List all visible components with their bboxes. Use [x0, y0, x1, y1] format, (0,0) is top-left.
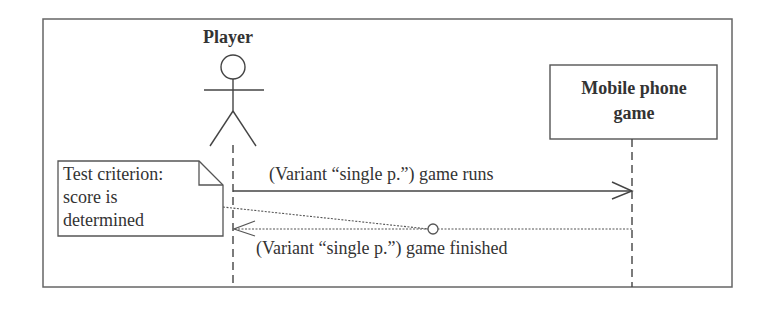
object-label-line1: Mobile phone: [581, 78, 687, 98]
sequence-diagram-canvas: [0, 0, 765, 312]
anchor-circle-icon: [428, 224, 438, 234]
note-line2: score is: [63, 187, 117, 207]
object-label-line2: game: [614, 103, 655, 123]
message-game-runs-label: (Variant “single p.”) game runs: [269, 164, 493, 185]
note-anchor-connector: [223, 207, 438, 234]
message-game-finished-label: (Variant “single p.”) game finished: [256, 238, 507, 259]
note-line3: determined: [63, 210, 144, 230]
note-line1: Test criterion:: [63, 164, 163, 184]
actor-player-label: Player: [203, 27, 253, 48]
note-test-criterion-text: Test criterion: score is determined: [63, 163, 203, 232]
object-mobile-game-label: Mobile phone game: [552, 76, 716, 126]
actor-player-icon: [204, 55, 264, 146]
